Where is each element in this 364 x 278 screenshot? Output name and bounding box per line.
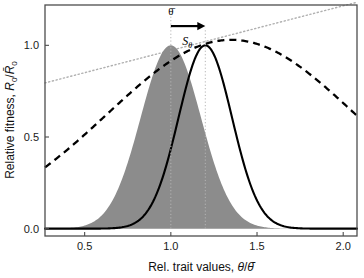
y-axis-title: Relative fitness, R0/R̄0 (3, 61, 19, 179)
x-axis-title: Rel. trait values, θ/θ̄ (148, 260, 256, 274)
y-tick-label: 0.5 (24, 131, 39, 143)
x-tick-label: 1.5 (249, 240, 264, 252)
y-tick-label: 1.0 (24, 39, 39, 51)
x-tick-label: 2.0 (336, 240, 351, 252)
figure-container: θ̄ Sθ 0.51.01.52.0 0.00.51.0 Rel. trait … (0, 0, 364, 278)
x-tick-label: 0.5 (77, 240, 92, 252)
x-tick-label: 1.0 (163, 240, 178, 252)
relative-fitness-chart: θ̄ Sθ 0.51.01.52.0 0.00.51.0 Rel. trait … (0, 0, 364, 278)
y-tick-label: 0.0 (24, 223, 39, 235)
